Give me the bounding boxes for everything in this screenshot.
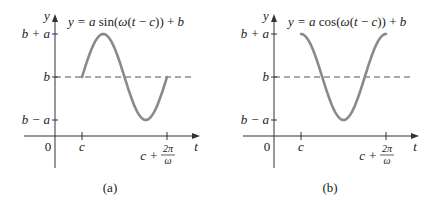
origin-label: 0 [45,139,52,154]
x-tick-label-period-main: c + [140,148,158,163]
x-tick-label-c: c [298,139,304,154]
x-tick-label-period-den: ω [383,155,390,166]
y-tick-label-top: b + a [241,26,270,41]
panel-a: y y = a sin(ω(t − c)) + b b + a b b − a … [22,8,200,195]
x-tick-label-period-main: c + [359,148,377,163]
panel-label: (a) [103,180,117,195]
y-tick-label-top: b + a [22,26,51,41]
y-axis-arrow [271,14,277,22]
y-tick-label-bottom: b − a [241,112,270,127]
cosine-curve [301,34,386,120]
y-tick-label-mid: b [44,69,51,84]
x-tick-label-c: c [79,139,85,154]
x-axis-label: t [413,139,417,154]
y-tick-label-mid: b [263,69,270,84]
panel-label: (b) [322,180,337,195]
x-axis-label: t [194,139,198,154]
x-tick-label-period-num: 2π [163,143,174,154]
y-tick-label-bottom: b − a [22,112,51,127]
y-axis-label: y [42,8,50,23]
figure: y y = a sin(ω(t − c)) + b b + a b b − a … [0,0,445,199]
origin-label: 0 [264,139,271,154]
sine-curve [82,34,167,120]
chart-title: y = a cos(ω(t − c)) + b [286,14,407,29]
y-axis-arrow [52,14,58,22]
x-tick-label-period-num: 2π [382,143,393,154]
chart-title: y = a sin(ω(t − c)) + b [66,14,185,29]
y-axis-label: y [261,8,269,23]
x-tick-label-period-den: ω [164,155,171,166]
panel-b: y y = a cos(ω(t − c)) + b b + a b b − a … [241,8,419,195]
